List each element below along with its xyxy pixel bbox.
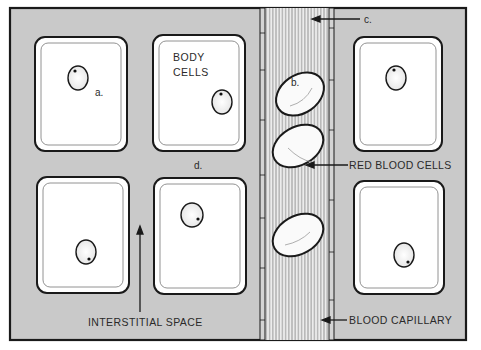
blood-capillary [260,8,334,340]
capillary-diagram: a. b. c. d. BODY CELLS RED BLOOD CELLS I… [0,0,481,350]
label-c: c. [364,14,372,25]
nucleus [76,240,96,264]
body-cell-bottom-left [37,177,129,293]
nucleus [394,243,414,267]
body-cell-bottom-right [354,181,444,294]
nucleus [68,66,88,90]
label-blood-capillary: BLOOD CAPILLARY [349,314,452,326]
label-interstitial-space: INTERSTITIAL SPACE [88,316,203,328]
body-cell-bottom-middle [154,178,246,294]
label-body-cells-line2: CELLS [173,66,209,78]
capillary-wall-right [329,8,334,340]
body-cell-top-left [35,37,127,151]
nucleus [181,203,203,227]
label-body-cells-line1: BODY [173,51,205,63]
nucleus [386,66,406,90]
label-b: b. [291,77,299,88]
capillary-wall-left [260,8,265,340]
body-cell-top-right [354,37,442,151]
label-red-blood-cells: RED BLOOD CELLS [349,159,452,171]
label-a: a. [95,87,103,98]
label-d: d. [194,160,202,171]
